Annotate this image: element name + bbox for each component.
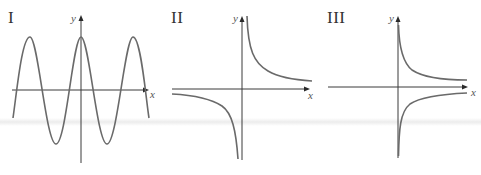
hyperbola-branch-lower xyxy=(172,94,238,159)
upper-branch xyxy=(399,25,468,80)
graph-3-plot xyxy=(320,0,481,175)
y-axis-arrow-icon xyxy=(396,16,401,22)
lower-branch xyxy=(399,93,468,156)
graph-panel-2: II y x xyxy=(160,0,320,175)
graph-2-plot xyxy=(160,0,320,175)
y-axis-arrow-icon xyxy=(79,15,84,21)
y-axis-arrow-icon xyxy=(240,16,245,22)
graph-1-plot xyxy=(0,0,160,175)
hyperbola-branch-upper xyxy=(247,16,312,81)
x-axis-arrow-icon xyxy=(304,87,310,92)
x-axis-arrow-icon xyxy=(462,85,468,90)
graph-panel-3: III y x xyxy=(320,0,481,175)
graph-panel-1: I y x xyxy=(0,0,160,175)
